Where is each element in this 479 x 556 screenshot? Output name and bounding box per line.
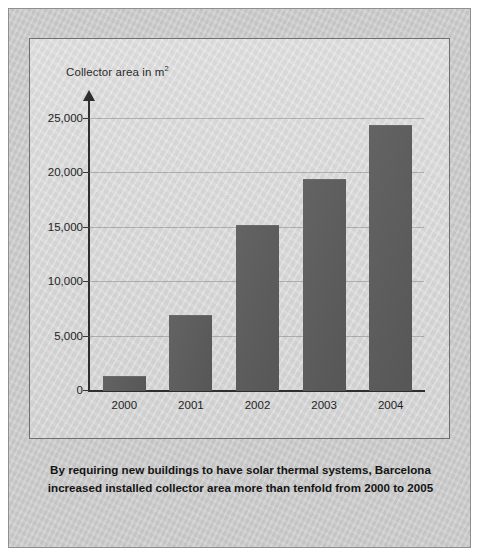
figure-frame: Collector area in m2 05,00010,00015,0002… <box>8 8 471 548</box>
figure-caption-line: By requiring new buildings to have solar… <box>33 461 448 479</box>
y-axis-title-superscript: 2 <box>164 64 168 73</box>
figure-caption-line: increased installed collector area more … <box>33 479 448 497</box>
y-axis-title: Collector area in m2 <box>66 64 169 78</box>
figure-caption: By requiring new buildings to have solar… <box>33 461 448 497</box>
y-axis-title-text: Collector area in m2 <box>66 66 169 78</box>
chart-panel <box>29 38 450 439</box>
